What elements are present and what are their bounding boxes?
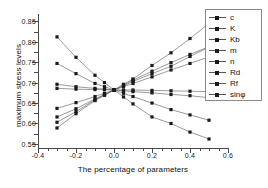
data-point xyxy=(131,88,134,91)
legend-item-5[interactable]: Rd xyxy=(206,67,261,78)
series-layer xyxy=(38,14,228,148)
legend-swatch-icon xyxy=(209,50,226,51)
data-point xyxy=(131,77,134,80)
data-point xyxy=(169,51,172,54)
data-point xyxy=(207,137,210,140)
data-point xyxy=(169,65,172,68)
x-minor-tick xyxy=(143,148,144,151)
legend-item-2[interactable]: Kb xyxy=(206,34,261,45)
legend-swatch-icon xyxy=(209,39,226,40)
data-point xyxy=(188,94,191,97)
legend-item-7[interactable]: sinφ xyxy=(206,89,261,100)
x-minor-tick xyxy=(95,148,96,151)
data-point xyxy=(55,83,58,86)
data-point xyxy=(74,72,77,75)
data-point xyxy=(74,101,77,104)
data-point xyxy=(150,89,153,92)
legend-swatch-icon xyxy=(209,83,226,84)
data-point xyxy=(74,88,77,91)
data-point xyxy=(188,37,191,40)
data-point xyxy=(122,88,125,91)
y-minor-tick xyxy=(34,32,38,33)
x-minor-tick xyxy=(171,148,172,151)
data-point xyxy=(55,126,58,129)
x-minor-tick xyxy=(57,148,58,151)
x-minor-tick xyxy=(67,148,68,151)
legend-label: n xyxy=(230,56,234,67)
legend-swatch-icon xyxy=(209,28,226,29)
data-point xyxy=(150,70,153,73)
data-point xyxy=(55,35,58,38)
data-point xyxy=(188,90,191,93)
y-axis-label: maximum stress levels xyxy=(14,26,23,146)
x-minor-tick xyxy=(181,148,182,151)
legend-label: Rd xyxy=(230,67,240,78)
data-point xyxy=(55,62,58,65)
data-point xyxy=(169,61,172,64)
series-line-c xyxy=(57,37,209,139)
data-point xyxy=(131,102,134,105)
legend-swatch-icon xyxy=(209,17,226,18)
data-point xyxy=(55,87,58,90)
y-tick-label: 0.55 xyxy=(22,140,36,147)
y-minor-tick xyxy=(34,72,38,73)
legend-label: sinφ xyxy=(230,89,245,100)
legend-swatch-icon xyxy=(209,61,226,62)
x-tick-label: 0.6 xyxy=(223,152,233,159)
y-tick-label: 0.60 xyxy=(22,120,36,127)
data-point xyxy=(188,62,191,65)
data-point xyxy=(188,130,191,133)
data-point xyxy=(74,112,77,115)
x-axis-label: The percentage of parameters xyxy=(38,165,228,174)
y-tick-label: 0.80 xyxy=(22,38,36,45)
legend-label: m xyxy=(230,45,237,56)
plot-area xyxy=(38,14,228,148)
legend-item-1[interactable]: K xyxy=(206,23,261,34)
y-tick-label: 0.70 xyxy=(22,79,36,86)
sensitivity-line-chart: -0.4-0.20.00.20.40.60.550.600.650.700.75… xyxy=(0,0,268,188)
data-point xyxy=(169,108,172,111)
x-tick-label: -0.4 xyxy=(32,152,45,159)
legend-label: K xyxy=(230,23,235,34)
data-point xyxy=(55,115,58,118)
x-minor-tick xyxy=(86,148,87,151)
legend-label: Kb xyxy=(230,34,240,45)
y-minor-tick xyxy=(34,52,38,53)
data-point xyxy=(150,115,153,118)
data-point xyxy=(74,107,77,110)
x-tick-label: 0.0 xyxy=(109,152,119,159)
legend-item-4[interactable]: n xyxy=(206,56,261,67)
legend-item-0[interactable]: c xyxy=(206,12,261,23)
x-minor-tick xyxy=(209,148,210,151)
data-point xyxy=(93,74,96,77)
y-tick-label: 0.85 xyxy=(22,18,36,25)
x-tick-label: 0.2 xyxy=(147,152,157,159)
data-point xyxy=(188,113,191,116)
legend-item-3[interactable]: m xyxy=(206,45,261,56)
data-point xyxy=(103,88,106,91)
data-point xyxy=(103,81,106,84)
legend-label: Rf xyxy=(230,78,238,89)
y-minor-tick xyxy=(34,134,38,135)
data-point xyxy=(188,53,191,56)
data-point xyxy=(93,88,96,91)
y-minor-tick xyxy=(34,113,38,114)
x-minor-tick xyxy=(105,148,106,151)
data-point xyxy=(131,95,134,98)
x-minor-tick xyxy=(124,148,125,151)
legend-item-6[interactable]: Rf xyxy=(206,78,261,89)
data-point xyxy=(150,64,153,67)
data-point xyxy=(169,89,172,92)
x-minor-tick xyxy=(133,148,134,151)
y-axis-line xyxy=(38,14,39,148)
x-minor-tick xyxy=(162,148,163,151)
data-point xyxy=(55,121,58,124)
x-minor-tick xyxy=(219,148,220,151)
data-point xyxy=(207,119,210,122)
legend: cKKbmnRdRfsinφ xyxy=(205,9,262,101)
data-point xyxy=(103,94,106,97)
x-tick-label: -0.2 xyxy=(70,152,83,159)
legend-swatch-icon xyxy=(209,94,226,95)
data-point xyxy=(93,82,96,85)
y-tick-label: 0.65 xyxy=(22,100,36,107)
